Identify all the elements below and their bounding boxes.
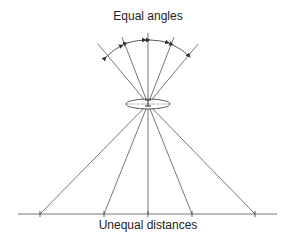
diagram-canvas: Equal angles Unequal distances — [0, 0, 294, 238]
top-ray — [148, 37, 174, 104]
bottom-ray — [148, 104, 255, 214]
top-ray — [98, 44, 148, 104]
bottom-ray — [104, 104, 148, 214]
diagram-svg — [0, 0, 294, 238]
top-ray — [122, 37, 148, 104]
unequal-distances-label: Unequal distances — [99, 218, 198, 232]
bottom-ray — [148, 104, 192, 214]
bottom-ray — [40, 104, 148, 214]
equal-angles-label: Equal angles — [113, 9, 182, 23]
top-ray — [148, 44, 198, 104]
